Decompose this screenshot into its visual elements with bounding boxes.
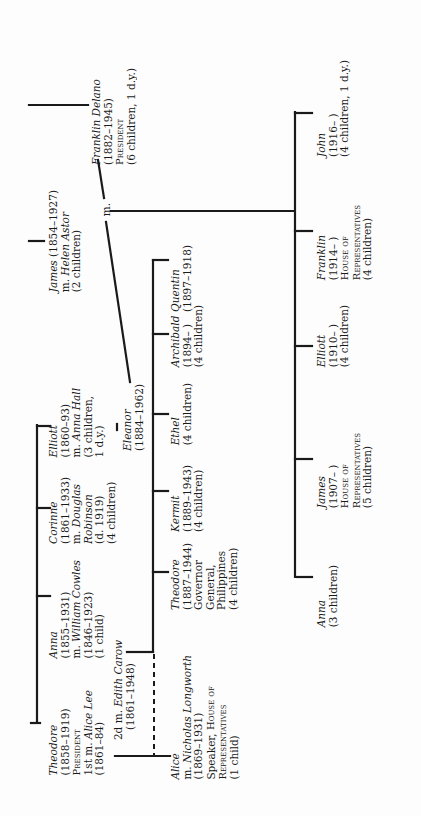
fdr-block: Franklin Delano (1882–1945) President (6…	[91, 68, 137, 165]
archibald-children: (4 children)	[193, 305, 205, 367]
john-children: (4 children, 1 d.y.)	[339, 60, 351, 157]
franklin-fdr-dates: (1914– )	[328, 205, 340, 280]
theodore-spouse2-dates: (1861–1948)	[125, 640, 137, 740]
anna-spouse: William Cowles	[70, 560, 82, 642]
roosevelt-family-tree: m. Franklin Delano (1882–1945) President…	[0, 0, 421, 816]
edith-carow-block: 2d m. Edith Carow (1861–1948)	[113, 640, 136, 740]
elliott-spouse-prefix: m.	[70, 444, 82, 457]
fdr-dates: (1882–1945)	[103, 68, 115, 165]
theodore-jr-children: (4 children)	[228, 543, 240, 610]
alice-children: (1 child)	[229, 655, 241, 780]
fdr-children: (6 children, 1 d.y.)	[126, 68, 138, 165]
theodore-spouse1-dates: (1861–84)	[94, 690, 106, 775]
alice-block: Alice m. Nicholas Longworth (1869–1931) …	[170, 655, 240, 780]
anna-fdr-children: (3 children)	[328, 565, 340, 627]
corinne-spouse-prefix: m.	[70, 531, 82, 544]
alice-role-a: Speaker,	[205, 730, 217, 780]
james-fdr-role-a: House of	[339, 433, 351, 508]
corinne-block: Corinne (1861–1933) m. Douglas Robinson …	[48, 477, 117, 544]
ethel-block: Ethel (4 children)	[170, 383, 193, 445]
james-name: James	[47, 260, 59, 292]
elliott-fdr-block: Elliott (1910– ) (4 children)	[316, 305, 351, 367]
alice-spouse-prefix: m.	[181, 766, 193, 779]
quentin-block: Quentin (1897–1918)	[170, 245, 193, 312]
corinne-spouse: Douglas	[70, 484, 82, 527]
james-spouse: Helen Astor	[59, 212, 71, 276]
theodore-block: Theodore (1858–1919) President 1st m. Al…	[48, 690, 106, 775]
theodore-jr-block: Theodore (1887–1944) Governor General, P…	[170, 543, 239, 610]
theodore-spouse1: Alice Lee	[82, 690, 94, 739]
kermit-block: Kermit (1889–1943) (4 children)	[170, 465, 205, 532]
anna-fdr-block: Anna (3 children)	[316, 565, 339, 627]
marriage-line-upper	[98, 160, 104, 198]
alice-role-b: House of	[205, 686, 216, 730]
marriage-line-lower	[106, 222, 130, 382]
elliott-children-2: 1 d.y.)	[94, 388, 106, 457]
franklin-fdr-block: Franklin (1914– ) House of Representativ…	[316, 205, 374, 280]
james-fdr-children: (5 children)	[362, 433, 374, 508]
james-fdr-dates: (1907– )	[328, 433, 340, 508]
theodore-dates: (1858–1919)	[60, 690, 72, 775]
elliott-sibling-block: Elliott (1860–93) m. Anna Hall (3 childr…	[48, 388, 106, 457]
franklin-fdr-role-a: House of	[339, 205, 351, 280]
anna-children: (1 child)	[94, 560, 106, 659]
anna-spouse-prefix: m.	[70, 645, 82, 658]
john-fdr-block: John (1916– ) (4 children, 1 d.y.)	[316, 60, 351, 157]
ethel-children: (4 children)	[182, 383, 194, 445]
kermit-children: (4 children)	[193, 465, 205, 532]
alice-spouse-dates: (1869–1931)	[193, 655, 205, 780]
corinne-children: (4 children)	[106, 477, 118, 544]
anna-sibling-block: Anna (1855–1931) m. William Cowles (1846…	[48, 560, 106, 659]
marriage-label: m.	[100, 203, 112, 216]
eleanor-block: Eleanor (1884–1962)	[122, 384, 145, 451]
james-children: (2 children)	[71, 190, 83, 292]
elliott-spouse: Anna Hall	[70, 388, 82, 441]
franklin-fdr-children: (4 children)	[362, 205, 374, 280]
james-fdr-block: James (1907– ) House of Representatives …	[316, 433, 374, 508]
james-spouse-prefix: m.	[59, 279, 71, 292]
alice-spouse: Nicholas Longworth	[181, 655, 193, 763]
james-block: James (1854–1927) m. Helen Astor (2 chil…	[48, 190, 83, 292]
quentin-dates: (1897–1918)	[182, 245, 194, 312]
eleanor-dates: (1884–1962)	[134, 384, 146, 451]
james-dates: (1854–1927)	[47, 190, 59, 257]
theodore-spouse2: Edith Carow	[112, 640, 124, 707]
archibald-block: Archibald (1894– ) (4 children)	[170, 305, 205, 367]
elliott-fdr-children: (4 children)	[339, 305, 351, 367]
